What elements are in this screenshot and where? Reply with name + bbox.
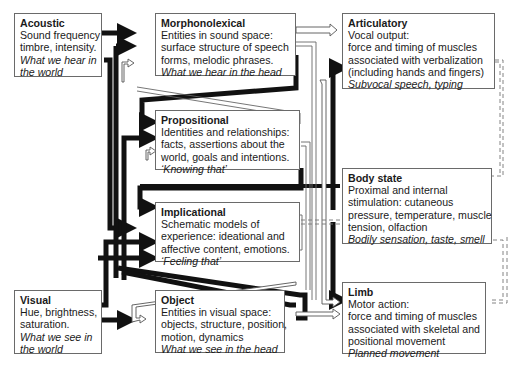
limb-line: Motor action:	[348, 298, 481, 310]
articulatory-line: force and timing of muscles	[348, 41, 490, 53]
limb-line: positional movement	[348, 335, 481, 347]
limb-line: force and timing of muscles	[348, 310, 481, 322]
dashed-limb-bodystate-2	[492, 236, 507, 303]
acoustic-italic: the world	[20, 66, 97, 78]
morphonolexical-line: surface structure of speech	[161, 41, 291, 53]
limb-box: Limb Motor action: force and timing of m…	[342, 282, 486, 354]
open-arrow-morph-articulatory	[296, 24, 337, 36]
articulatory-line: (including hands and fingers)	[348, 66, 490, 78]
body-state-line: Proximal and internal	[348, 184, 487, 196]
morphonolexical-line: forms, melodic phrases.	[161, 54, 291, 66]
arrow-to-limb	[333, 222, 340, 300]
limb-title: Limb	[348, 286, 481, 298]
propositional-italic: ‘Knowing that’	[161, 163, 295, 175]
acoustic-box: Acoustic Sound frequency timbre, intensi…	[14, 13, 102, 77]
articulatory-box: Articulatory Vocal output: force and tim…	[342, 13, 495, 89]
acoustic-line: Sound frequency	[20, 29, 97, 41]
propositional-line: world, goals and intentions.	[161, 151, 295, 163]
acoustic-line: timbre, intensity.	[20, 41, 97, 53]
visual-line: saturation.	[20, 318, 97, 330]
object-line: objects, structure, position,	[161, 318, 280, 330]
articulatory-italic: Subvocal speech, typing	[348, 78, 490, 90]
visual-line: Hue, brightness,	[20, 306, 97, 318]
open-arrow-to-morph	[122, 59, 134, 82]
body-state-box: Body state Proximal and internal stimula…	[342, 168, 492, 244]
articulatory-line: Vocal output:	[348, 29, 490, 41]
body-state-line: tension, olfaction	[348, 221, 487, 233]
implicational-line: experience: ideational and	[161, 230, 295, 242]
morphonolexical-title: Morphonolexical	[161, 17, 291, 29]
articulatory-line: associated with verbalization	[348, 54, 490, 66]
body-state-line: pressure, temperature, muscle	[348, 209, 487, 221]
implicational-italic: ‘Feeling that’	[161, 255, 295, 267]
acoustic-title: Acoustic	[20, 17, 97, 29]
object-box: Object Entities in visual space: objects…	[155, 290, 285, 353]
visual-italic: What we see in	[20, 331, 97, 343]
body-state-title: Body state	[348, 172, 487, 184]
limb-italic: Planned movement	[348, 347, 481, 359]
body-state-italic: Bodily sensation, taste, smell	[348, 233, 487, 245]
dashed-limb-bodystate	[492, 240, 503, 300]
limb-line: associated with skeletal and	[348, 323, 481, 335]
dashed-articulatory-bodystate-2	[495, 62, 500, 174]
arrow-to-articulatory	[333, 68, 340, 210]
articulatory-title: Articulatory	[348, 17, 490, 29]
object-line: Entities in visual space:	[161, 306, 280, 318]
implicational-line: Schematic models of	[161, 218, 295, 230]
acoustic-italic: What we hear in	[20, 54, 97, 66]
object-line: motion, dynamics	[161, 331, 280, 343]
object-italic: What we see in the head	[161, 343, 280, 355]
object-title: Object	[161, 294, 280, 306]
morphonolexical-box: Morphonolexical Entities in sound space:…	[155, 13, 296, 76]
morphonolexical-line: Entities in sound space:	[161, 29, 291, 41]
visual-italic: the world	[20, 343, 97, 355]
implicational-box: Implicational Schematic models of experi…	[155, 202, 300, 262]
morphonolexical-italic: What we hear in the head	[161, 66, 291, 78]
propositional-title: Propositional	[161, 114, 295, 126]
visual-title: Visual	[20, 294, 97, 306]
implicational-title: Implicational	[161, 206, 295, 218]
propositional-line: Identities and relationships:	[161, 126, 295, 138]
propositional-line: facts, assertions about the	[161, 138, 295, 150]
visual-box: Visual Hue, brightness, saturation. What…	[14, 290, 102, 354]
propositional-box: Propositional Identities and relationshi…	[155, 110, 300, 170]
body-state-line: stimulation: cutaneous	[348, 196, 487, 208]
implicational-line: affective content, emotions.	[161, 243, 295, 255]
open-arrow-object-limb-2	[320, 80, 340, 307]
